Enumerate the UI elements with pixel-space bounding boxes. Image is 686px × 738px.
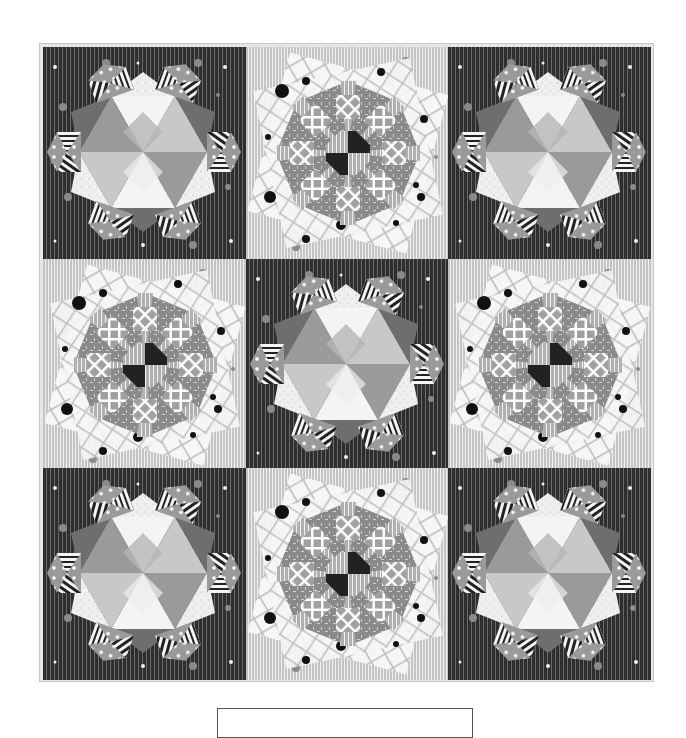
quilt-block-octagon-rosette [43,259,246,468]
quilt-block-star-hexagon [43,47,246,259]
quilt-block-star-hexagon [448,468,651,680]
quilt-block-star-hexagon [448,47,651,259]
quilt-image [39,43,654,682]
quilt-block-octagon-rosette [448,259,651,468]
quilt-block-star-hexagon [246,259,448,468]
quilt-block-star-hexagon [43,468,246,680]
quilt-block-grid [43,47,650,678]
quilt-block-octagon-rosette [246,47,448,259]
quilt-block-octagon-rosette [246,468,448,680]
caption-box [217,708,473,738]
